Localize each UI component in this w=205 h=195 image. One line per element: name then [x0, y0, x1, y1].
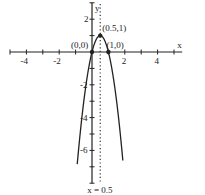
x-axis-label: x — [177, 40, 182, 50]
point-label: (0.5,1) — [102, 23, 126, 33]
y-tick-label: 2 — [84, 14, 89, 24]
parabola-graph: -4-224x2-2-4-6yx = 0.5(0,0)(1,0)(0.5,1) — [0, 0, 205, 195]
point-label: (1,0) — [106, 40, 123, 50]
point-label: (0,0) — [71, 40, 88, 50]
point-marker — [90, 50, 94, 54]
chart-canvas: -4-224x2-2-4-6yx = 0.5(0,0)(1,0)(0.5,1) — [0, 0, 205, 195]
x-tick-label: -2 — [53, 56, 61, 66]
point-marker — [106, 50, 110, 54]
symmetry-line-label: x = 0.5 — [87, 185, 113, 195]
x-tick-label: -4 — [20, 56, 28, 66]
x-tick-label: 2 — [122, 56, 127, 66]
y-tick-label: -6 — [80, 145, 88, 155]
point-marker — [98, 33, 102, 37]
x-tick-label: 4 — [155, 56, 160, 66]
y-axis-label: y — [95, 3, 100, 13]
